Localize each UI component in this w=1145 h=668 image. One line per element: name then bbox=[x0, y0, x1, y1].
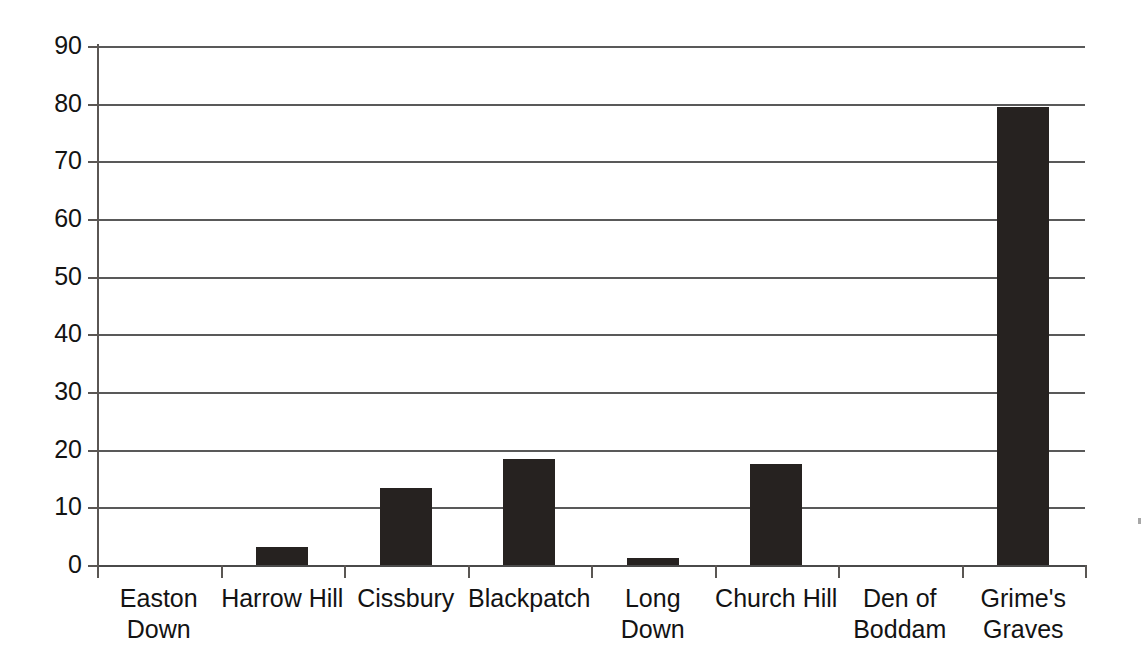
y-axis-tick-label: 30 bbox=[12, 379, 82, 404]
x-axis-category-label: Blackpatch bbox=[468, 583, 592, 614]
y-axis-tick bbox=[88, 392, 97, 394]
y-axis-tick bbox=[88, 277, 97, 279]
y-axis-tick bbox=[88, 334, 97, 336]
y-axis-tick bbox=[88, 161, 97, 163]
bar bbox=[380, 488, 432, 565]
x-axis-category-label-line: Graves bbox=[962, 614, 1086, 645]
y-axis-tick bbox=[88, 565, 97, 567]
bar bbox=[997, 107, 1049, 565]
y-axis-tick-label: 60 bbox=[12, 206, 82, 231]
x-axis-category-label-line: Cissbury bbox=[344, 583, 468, 614]
x-axis-category-label-line: Boddam bbox=[838, 614, 962, 645]
x-axis-category-label-line: Blackpatch bbox=[468, 583, 592, 614]
y-axis-tick bbox=[88, 104, 97, 106]
y-axis-tick-label: 50 bbox=[12, 264, 82, 289]
x-axis-tick bbox=[962, 565, 964, 578]
x-axis-category-label-line: Harrow Hill bbox=[221, 583, 345, 614]
bars-layer bbox=[97, 46, 1085, 565]
x-axis-category-label: Church Hill bbox=[715, 583, 839, 614]
x-axis-category-label: Den ofBoddam bbox=[838, 583, 962, 645]
x-axis-category-label: EastonDown bbox=[97, 583, 221, 645]
bar bbox=[750, 464, 802, 565]
x-axis-tick bbox=[468, 565, 470, 578]
x-axis-category-label: Harrow Hill bbox=[221, 583, 345, 614]
x-axis-category-label-line: Down bbox=[97, 614, 221, 645]
x-axis-tick bbox=[838, 565, 840, 578]
x-axis-category-label-line: Long Down bbox=[591, 583, 715, 645]
y-axis-tick-label: 90 bbox=[12, 33, 82, 58]
x-axis-tick bbox=[591, 565, 593, 578]
x-axis-category-label: Grime'sGraves bbox=[962, 583, 1086, 645]
x-axis-tick bbox=[1085, 565, 1087, 578]
y-axis-tick bbox=[88, 46, 97, 48]
x-axis-tick bbox=[344, 565, 346, 578]
bar bbox=[256, 547, 308, 565]
bar-chart: 9080706050403020100 EastonDownHarrow Hil… bbox=[0, 0, 1145, 668]
x-axis-tick-labels: EastonDownHarrow HillCissburyBlackpatchL… bbox=[97, 583, 1085, 663]
y-axis-tick bbox=[88, 507, 97, 509]
y-axis-tick bbox=[88, 450, 97, 452]
x-axis-category-label-line: Church Hill bbox=[715, 583, 839, 614]
y-axis-tick-label: 0 bbox=[12, 552, 82, 577]
y-axis-tick-label: 40 bbox=[12, 321, 82, 346]
x-axis-category-label: Cissbury bbox=[344, 583, 468, 614]
x-axis-category-label-line: Easton bbox=[97, 583, 221, 614]
y-axis-tick-label: 10 bbox=[12, 494, 82, 519]
y-axis-tick bbox=[88, 219, 97, 221]
scan-artifact-speck bbox=[1138, 518, 1141, 524]
x-axis-tick bbox=[715, 565, 717, 578]
bar bbox=[627, 558, 679, 565]
x-axis-category-label-line: Grime's bbox=[962, 583, 1086, 614]
x-axis-tick bbox=[97, 565, 99, 578]
x-axis-category-label: Long Down bbox=[591, 583, 715, 645]
y-axis-tick-label: 20 bbox=[12, 437, 82, 462]
y-axis-tick-label: 80 bbox=[12, 91, 82, 116]
x-axis-tick bbox=[221, 565, 223, 578]
bar bbox=[503, 459, 555, 565]
x-axis-category-label-line: Den of bbox=[838, 583, 962, 614]
y-axis-tick-labels: 9080706050403020100 bbox=[0, 0, 82, 668]
y-axis-tick-label: 70 bbox=[12, 148, 82, 173]
